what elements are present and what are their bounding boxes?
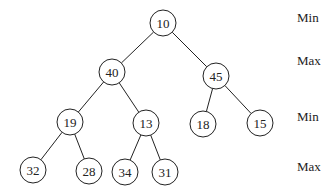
node-value: 13 xyxy=(140,116,153,131)
node-value: 28 xyxy=(83,164,96,179)
node-value: 34 xyxy=(119,165,133,180)
tree-edge xyxy=(130,135,141,160)
tree-edge xyxy=(78,82,103,112)
tree-nodes: 1040451913181532283431 xyxy=(20,10,273,185)
level-label-min: Min xyxy=(297,109,319,124)
tree-node: 18 xyxy=(190,111,216,137)
tree-edges xyxy=(41,32,251,160)
level-label-max: Max xyxy=(297,53,321,68)
tree-node: 19 xyxy=(57,109,83,135)
tree-node: 31 xyxy=(152,159,178,185)
tree-node: 15 xyxy=(247,110,273,136)
node-value: 15 xyxy=(254,116,267,131)
tree-edge xyxy=(151,135,161,160)
node-value: 32 xyxy=(27,163,40,178)
tree-node: 28 xyxy=(76,158,102,184)
node-value: 10 xyxy=(157,16,170,31)
tree-edge xyxy=(119,83,139,112)
min-max-heap-diagram: 1040451913181532283431 MinMaxMinMax xyxy=(0,0,335,193)
tree-node: 10 xyxy=(150,10,176,36)
node-value: 40 xyxy=(106,65,119,80)
tree-node: 13 xyxy=(133,110,159,136)
tree-edge xyxy=(75,134,85,159)
node-value: 31 xyxy=(159,165,172,180)
tree-node: 45 xyxy=(203,63,229,89)
tree-edge xyxy=(206,89,212,112)
tree-node: 34 xyxy=(112,159,138,185)
tree-edge xyxy=(121,32,153,63)
tree-edge xyxy=(225,85,251,113)
tree-edge xyxy=(41,132,62,159)
node-value: 19 xyxy=(64,115,77,130)
level-label-min: Min xyxy=(297,10,319,25)
node-value: 45 xyxy=(210,69,223,84)
level-label-max: Max xyxy=(297,159,321,174)
level-labels: MinMaxMinMax xyxy=(297,10,321,174)
tree-svg: 1040451913181532283431 MinMaxMinMax xyxy=(0,0,335,193)
node-value: 18 xyxy=(197,117,210,132)
tree-edge xyxy=(172,32,207,67)
tree-node: 40 xyxy=(99,59,125,85)
tree-node: 32 xyxy=(20,157,46,183)
